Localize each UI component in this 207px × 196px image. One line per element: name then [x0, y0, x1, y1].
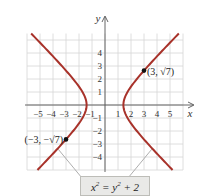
y-tick-label: −3: [92, 139, 102, 149]
leader-line-right: [128, 149, 152, 178]
x-tick-label: 4: [155, 109, 160, 119]
x-tick-label: 5: [168, 109, 173, 119]
hyperbola-chart: xy −5−4−3−2−112345−4−3−2−11234 (3, √7)(−…: [0, 0, 207, 196]
y-axis-label: y: [95, 12, 101, 24]
x-tick-label: −4: [46, 109, 56, 119]
x-tick-label: 3: [142, 109, 147, 119]
x-tick-label: 2: [129, 109, 134, 119]
y-tick-label: −4: [92, 152, 102, 162]
y-tick-label: 4: [98, 48, 103, 58]
y-tick-label: 2: [98, 74, 103, 84]
leader-line-left: [58, 149, 82, 178]
y-tick-label: −1: [92, 113, 102, 123]
data-point: [142, 68, 147, 73]
x-axis-label: x: [187, 107, 193, 119]
y-tick-label: −2: [92, 126, 102, 136]
y-tick-label: 1: [98, 87, 103, 97]
data-point-label: (3, √7): [147, 66, 174, 78]
x-tick-label: −3: [59, 109, 69, 119]
x-tick-label: 1: [116, 109, 121, 119]
data-point: [64, 137, 69, 142]
x-tick-label: −5: [33, 109, 43, 119]
x-tick-label: −2: [72, 109, 82, 119]
equation-text: x2 = y2 + 2: [91, 180, 139, 193]
equation-label: x2 = y2 + 2: [80, 176, 150, 196]
data-point-label: (−3, −√7): [25, 134, 63, 146]
y-tick-label: 3: [98, 61, 103, 71]
